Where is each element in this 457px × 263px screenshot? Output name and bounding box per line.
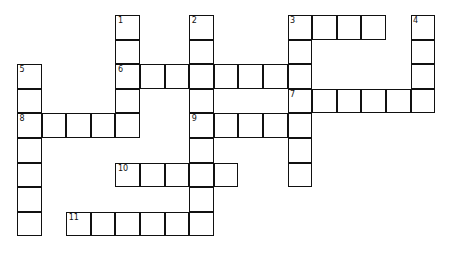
crossword-cell[interactable]: [189, 212, 214, 237]
crossword-cell[interactable]: [238, 64, 263, 89]
crossword-cell[interactable]: [238, 113, 263, 138]
crossword-cell[interactable]: [115, 89, 140, 114]
crossword-cell[interactable]: [189, 89, 214, 114]
crossword-cell[interactable]: [140, 64, 165, 89]
crossword-cell[interactable]: 6: [115, 64, 140, 89]
crossword-cell[interactable]: 2: [189, 15, 214, 40]
crossword-cell[interactable]: [165, 212, 190, 237]
crossword-cell[interactable]: [17, 163, 42, 188]
crossword-cell[interactable]: [140, 212, 165, 237]
crossword-cell[interactable]: [312, 89, 337, 114]
crossword-cell[interactable]: [115, 113, 140, 138]
crossword-cell[interactable]: [361, 15, 386, 40]
crossword-cell[interactable]: [115, 40, 140, 65]
crossword-cell[interactable]: 9: [189, 113, 214, 138]
crossword-cell[interactable]: [337, 15, 362, 40]
crossword-cell[interactable]: [66, 113, 91, 138]
crossword-cell[interactable]: [288, 138, 313, 163]
crossword-cell[interactable]: [361, 89, 386, 114]
crossword-cell[interactable]: [189, 138, 214, 163]
crossword-cell[interactable]: 1: [115, 15, 140, 40]
crossword-cell[interactable]: [312, 15, 337, 40]
crossword-cell[interactable]: 11: [66, 212, 91, 237]
crossword-cell[interactable]: [189, 187, 214, 212]
crossword-cell[interactable]: [214, 64, 239, 89]
crossword-cell[interactable]: [42, 113, 67, 138]
crossword-cell[interactable]: [263, 113, 288, 138]
clue-number: 7: [290, 90, 295, 99]
crossword-cell[interactable]: [189, 64, 214, 89]
crossword-cell[interactable]: 7: [288, 89, 313, 114]
crossword-cell[interactable]: [288, 40, 313, 65]
clue-number: 2: [192, 16, 197, 25]
crossword-cell[interactable]: [214, 163, 239, 188]
crossword-cell[interactable]: [411, 89, 436, 114]
crossword-cell[interactable]: [386, 89, 411, 114]
crossword-cell[interactable]: 4: [411, 15, 436, 40]
clue-number: 5: [20, 65, 25, 74]
clue-number: 3: [290, 16, 295, 25]
clue-number: 9: [192, 114, 197, 123]
crossword-cell[interactable]: [91, 212, 116, 237]
crossword-cell[interactable]: [337, 89, 362, 114]
crossword-cell[interactable]: [165, 163, 190, 188]
clue-number: 8: [20, 114, 25, 123]
crossword-cell[interactable]: [140, 163, 165, 188]
crossword-cell[interactable]: [17, 212, 42, 237]
crossword-cell[interactable]: [115, 212, 140, 237]
crossword-cell[interactable]: 8: [17, 113, 42, 138]
crossword-cell[interactable]: [165, 64, 190, 89]
crossword-cell[interactable]: [288, 163, 313, 188]
crossword-cell[interactable]: [411, 40, 436, 65]
crossword-grid: 1629374581011: [0, 0, 457, 263]
crossword-cell[interactable]: [288, 64, 313, 89]
crossword-cell[interactable]: [189, 40, 214, 65]
crossword-cell[interactable]: [214, 113, 239, 138]
clue-number: 11: [69, 213, 79, 222]
clue-number: 10: [118, 164, 128, 173]
crossword-cell[interactable]: [288, 113, 313, 138]
crossword-cell[interactable]: [411, 64, 436, 89]
crossword-cell[interactable]: 3: [288, 15, 313, 40]
crossword-cell[interactable]: [91, 113, 116, 138]
clue-number: 4: [413, 16, 418, 25]
crossword-cell[interactable]: [17, 187, 42, 212]
crossword-cell[interactable]: 5: [17, 64, 42, 89]
crossword-cell[interactable]: [263, 64, 288, 89]
crossword-cell[interactable]: [17, 138, 42, 163]
clue-number: 1: [118, 16, 123, 25]
crossword-cell[interactable]: 10: [115, 163, 140, 188]
crossword-cell[interactable]: [189, 163, 214, 188]
crossword-cell[interactable]: [17, 89, 42, 114]
clue-number: 6: [118, 65, 123, 74]
